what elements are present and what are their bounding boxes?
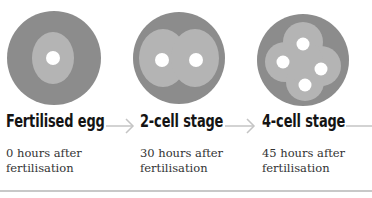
4-cell-illustration bbox=[248, 0, 360, 112]
nucleus bbox=[277, 56, 290, 69]
stage-2-cell: 2-cell stage 30 hours after fertilisatio… bbox=[125, 0, 245, 190]
stage-4-cell: 4-cell stage 45 hours after fertilisatio… bbox=[248, 0, 368, 190]
nucleus bbox=[297, 38, 310, 51]
stage-time-line1: 30 hours after bbox=[140, 146, 223, 161]
stage-title: Fertilised egg bbox=[6, 110, 105, 131]
2-cell-illustration bbox=[125, 0, 235, 112]
stage-time-line1: 0 hours after bbox=[6, 146, 82, 161]
stage-title: 4-cell stage bbox=[262, 110, 345, 131]
nucleus bbox=[315, 63, 328, 76]
fertilised-egg-illustration bbox=[0, 0, 110, 112]
stage-time-line1: 45 hours after bbox=[262, 146, 345, 161]
nucleus bbox=[189, 53, 203, 67]
stage-time-line2: fertilisation bbox=[262, 161, 330, 176]
line-continuation-icon bbox=[346, 118, 372, 134]
stage-time-line2: fertilisation bbox=[140, 161, 208, 176]
stage-time-line2: fertilisation bbox=[6, 161, 74, 176]
stage-fertilised-egg: Fertilised egg 0 hours after fertilisati… bbox=[0, 0, 120, 190]
bottom-divider bbox=[0, 190, 372, 192]
nucleus bbox=[46, 51, 60, 65]
nucleus bbox=[155, 53, 169, 67]
stage-title: 2-cell stage bbox=[140, 110, 223, 131]
nucleus bbox=[299, 79, 312, 92]
